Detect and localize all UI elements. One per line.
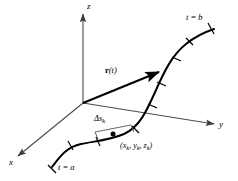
point-z-sub: k [147, 144, 150, 151]
x-axis [18, 103, 83, 156]
position-vector-arrow [83, 72, 159, 103]
y-axis-label: y [219, 120, 223, 129]
arc-length-label: Δsk [94, 114, 105, 123]
arc-subscript: k [102, 117, 105, 124]
z-axis-label: z [87, 2, 91, 11]
curve-partition-ticks [48, 23, 214, 173]
figure-canvas [0, 0, 238, 181]
point-x-sub: k [126, 144, 129, 151]
sample-point-label: (xk, yk, zk) [120, 142, 152, 150]
sample-point-marker [111, 132, 116, 137]
x-axis-label: x [9, 158, 13, 167]
vector-arg: (t) [109, 65, 117, 75]
curve-end-label: t = b [186, 13, 203, 22]
point-y-sub: k [137, 144, 140, 151]
curve-start-label: t = a [58, 163, 75, 172]
position-vector-label: r(t) [105, 66, 117, 75]
space-curve-figure: z y x r(t) t = b t = a Δsk (xk, yk, zk) [0, 0, 238, 181]
